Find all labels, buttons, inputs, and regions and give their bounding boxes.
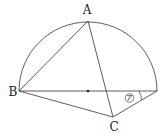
segment-cd [113,91,157,117]
center-point [87,90,90,93]
label-c: C [109,120,118,134]
label-a: A [82,3,92,17]
angle-mark-label: ア [126,94,133,102]
segment-bc [19,91,113,117]
semicircle-arc [19,22,157,91]
geometry-figure: ア A B C [0,0,168,138]
label-b: B [9,85,18,99]
segment-ac [88,21,113,117]
angle-arc [139,91,142,100]
